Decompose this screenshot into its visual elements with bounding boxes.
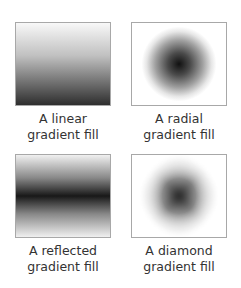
caption-line-1: A diamond [131,243,227,259]
caption-line-2: gradient fill [131,259,227,275]
radial-gradient-caption: A radial gradient fill [131,111,227,143]
reflected-gradient-caption: A reflected gradient fill [15,243,111,275]
linear-gradient-swatch [15,22,111,106]
caption-line-1: A reflected [15,243,111,259]
diamond-shape [131,154,227,238]
caption-line-1: A linear [15,111,111,127]
caption-line-2: gradient fill [131,127,227,143]
reflected-gradient-figure: A reflected gradient fill [15,154,111,275]
radial-gradient-figure: A radial gradient fill [131,22,227,143]
reflected-gradient-swatch [15,154,111,238]
diamond-gradient-figure: A diamond gradient fill [131,154,227,275]
radial-gradient-swatch [131,22,227,106]
caption-line-1: A radial [131,111,227,127]
diamond-gradient-swatch [131,154,227,238]
diamond-gradient-caption: A diamond gradient fill [131,243,227,275]
linear-gradient-figure: A linear gradient fill [15,22,111,143]
linear-gradient-caption: A linear gradient fill [15,111,111,143]
caption-line-2: gradient fill [15,259,111,275]
caption-line-2: gradient fill [15,127,111,143]
